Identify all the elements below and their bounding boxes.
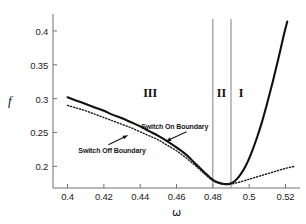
y-tick-label-0.25: 0.25 bbox=[18, 127, 48, 138]
tick-marks bbox=[53, 31, 285, 188]
x-tick-label-0.42: 0.42 bbox=[95, 191, 113, 202]
annotation-arrows bbox=[108, 132, 186, 145]
switch-on-annotation-text: Switch On Boundary bbox=[141, 123, 208, 130]
switch-off-annotation-text: Switch Off Boundary bbox=[78, 146, 145, 153]
x-axis-title: ω bbox=[172, 206, 181, 219]
region-i-label: I bbox=[239, 85, 244, 100]
switch-on-annotation-arrow bbox=[167, 132, 187, 141]
x-tick-label-0.52: 0.52 bbox=[277, 191, 295, 202]
figure-canvas: 0.40.420.440.460.480.50.52 0.20.250.30.3… bbox=[0, 0, 306, 224]
y-tick-label-0.3: 0.3 bbox=[18, 93, 48, 104]
y-axis-title: f bbox=[8, 93, 12, 109]
x-tick-label-0.48: 0.48 bbox=[204, 191, 222, 202]
curve-switch-on-boundary bbox=[68, 21, 288, 184]
curve-switch-off-boundary bbox=[68, 105, 295, 184]
x-tick-label-0.44: 0.44 bbox=[131, 191, 149, 202]
y-tick-label-0.35: 0.35 bbox=[18, 59, 48, 70]
axis-spines bbox=[53, 14, 300, 188]
vertical-boundary-lines bbox=[213, 19, 231, 188]
x-tick-label-0.5: 0.5 bbox=[243, 191, 256, 202]
region-iii-label: III bbox=[143, 85, 157, 100]
switch-off-annotation-arrow bbox=[108, 136, 127, 145]
x-tick-label-0.46: 0.46 bbox=[168, 191, 186, 202]
x-tick-label-0.4: 0.4 bbox=[61, 191, 74, 202]
region-ii-label: II bbox=[217, 85, 226, 100]
y-tick-label-0.2: 0.2 bbox=[18, 161, 48, 172]
y-tick-label-0.4: 0.4 bbox=[18, 25, 48, 36]
data-curves bbox=[68, 21, 295, 184]
